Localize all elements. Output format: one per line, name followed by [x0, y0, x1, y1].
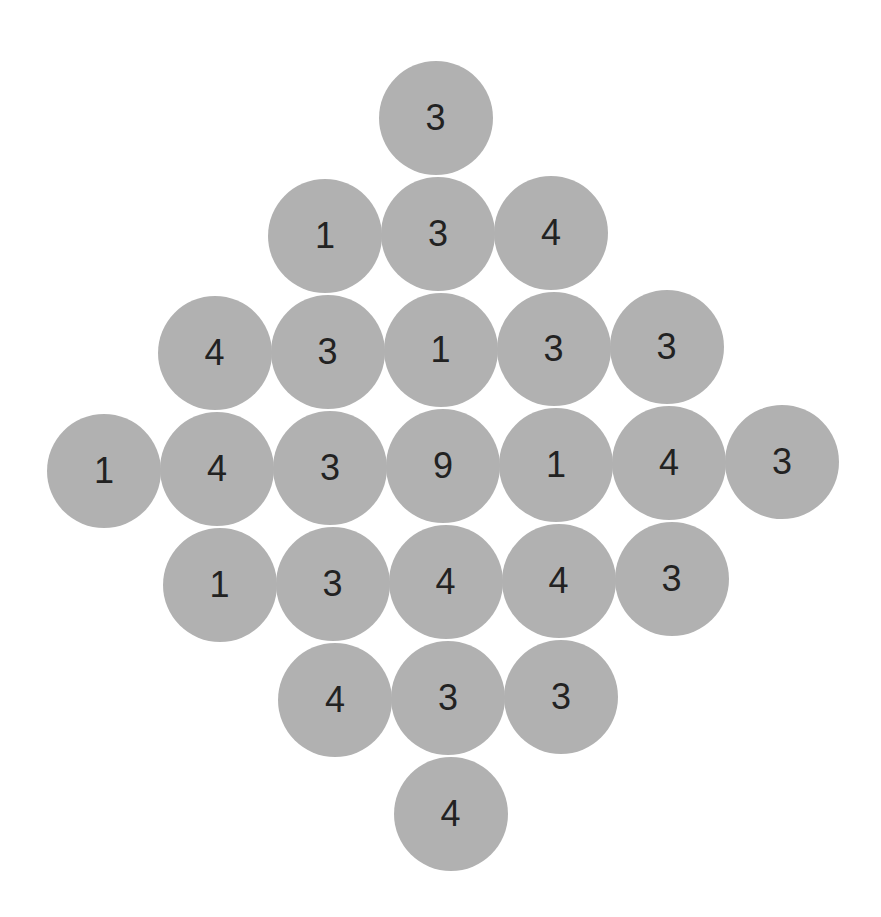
number-circle[interactable]: 4: [612, 406, 726, 520]
number-circle[interactable]: 4: [494, 176, 608, 290]
number-circle-board: 3134431331439143134434334: [0, 0, 881, 917]
number-circle[interactable]: 3: [725, 405, 839, 519]
number-circle[interactable]: 3: [273, 411, 387, 525]
number-circle[interactable]: 1: [384, 293, 498, 407]
number-circle[interactable]: 3: [497, 292, 611, 406]
number-circle[interactable]: 4: [394, 757, 508, 871]
number-circle[interactable]: 3: [615, 522, 729, 636]
number-circle[interactable]: 4: [160, 412, 274, 526]
number-circle[interactable]: 3: [381, 177, 495, 291]
number-circle[interactable]: 1: [499, 408, 613, 522]
number-circle[interactable]: 3: [610, 290, 724, 404]
number-circle[interactable]: 3: [504, 640, 618, 754]
number-circle[interactable]: 4: [278, 643, 392, 757]
number-circle[interactable]: 3: [379, 61, 493, 175]
number-circle[interactable]: 9: [386, 409, 500, 523]
number-circle[interactable]: 1: [268, 179, 382, 293]
number-circle[interactable]: 1: [47, 414, 161, 528]
number-circle[interactable]: 4: [502, 524, 616, 638]
number-circle[interactable]: 4: [389, 525, 503, 639]
number-circle[interactable]: 3: [271, 295, 385, 409]
number-circle[interactable]: 4: [158, 296, 272, 410]
number-circle[interactable]: 1: [163, 528, 277, 642]
number-circle[interactable]: 3: [391, 641, 505, 755]
number-circle[interactable]: 3: [276, 527, 390, 641]
